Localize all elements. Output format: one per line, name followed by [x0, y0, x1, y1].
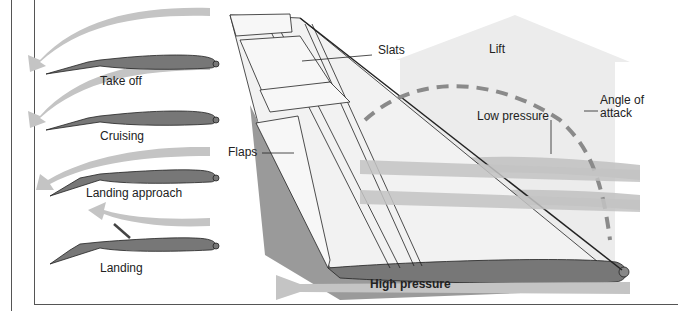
label-lift: Lift [489, 43, 505, 55]
label-landing-approach: Landing approach [86, 187, 182, 199]
airfoil-cruising [46, 111, 219, 130]
label-cruising: Cruising [100, 130, 144, 142]
label-slats: Slats [378, 44, 405, 56]
label-angle-of-attack: Angle of attack [600, 94, 644, 119]
label-take-off: Take off [100, 75, 142, 87]
airfoil-landing [50, 224, 219, 264]
label-high-pressure: High pressure [370, 278, 451, 290]
label-flaps: Flaps [228, 146, 257, 158]
label-landing: Landing [100, 262, 143, 274]
label-low-pressure: Low pressure [477, 110, 549, 122]
